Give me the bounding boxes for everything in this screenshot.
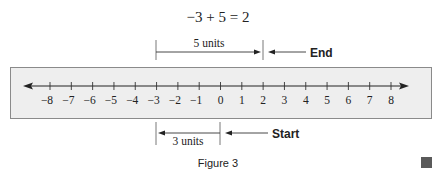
tick-label: 6 — [346, 94, 352, 106]
tick-label: −3 — [147, 94, 159, 106]
tick-label: −1 — [190, 94, 202, 106]
figure-caption: Figure 3 — [198, 157, 238, 169]
arrow-left-icon — [225, 131, 232, 136]
start-callout: Start — [225, 127, 299, 141]
arrow-left-icon — [158, 131, 165, 136]
tick-label: 8 — [388, 94, 394, 106]
tick-label: −5 — [105, 94, 117, 106]
arrow-left-icon — [268, 50, 275, 55]
arrow-right-icon — [254, 50, 261, 55]
tick-label: −4 — [126, 94, 138, 106]
number-line-box — [11, 68, 432, 119]
tick-label: −6 — [84, 94, 96, 106]
tick-label: 2 — [260, 94, 266, 106]
end-callout-label: End — [310, 46, 333, 60]
tick-label: 0 — [218, 94, 224, 106]
start-callout-label: Start — [272, 127, 299, 141]
end-of-section-square-icon — [421, 157, 432, 168]
tick-label: 5 — [324, 94, 330, 106]
tick-label: 7 — [367, 94, 373, 106]
tick-label: 4 — [303, 94, 309, 106]
top-bracket-label: 5 units — [194, 37, 226, 49]
tick-label: −7 — [62, 94, 74, 106]
tick-label: −2 — [169, 94, 181, 106]
bottom-bracket: 3 units — [156, 122, 220, 147]
tick-label: 3 — [282, 94, 288, 106]
tick-label: 1 — [239, 94, 245, 106]
equation: −3 + 5 = 2 — [187, 9, 250, 25]
top-bracket: 5 units — [156, 37, 263, 60]
end-callout: End — [268, 46, 333, 60]
number-line-figure: −3 + 5 = 2 5 units End −8−7−6−5−4−3−2−10… — [0, 0, 436, 174]
bottom-bracket-label: 3 units — [173, 135, 205, 147]
tick-label: −8 — [41, 94, 53, 106]
